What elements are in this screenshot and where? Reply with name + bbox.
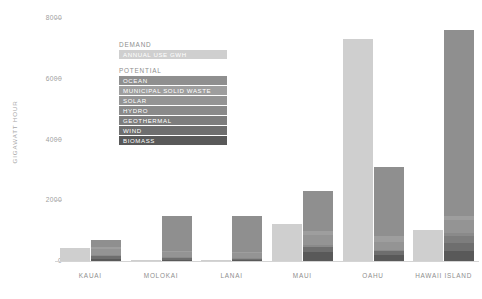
bar-segment [232, 259, 262, 260]
bar-segment [232, 253, 262, 258]
bar-segment [444, 251, 474, 261]
bar-potential [444, 30, 474, 261]
legend-group-demand: ANNUAL USE GWH [119, 50, 227, 59]
legend-item-wind[interactable]: WIND [119, 126, 227, 135]
legend-item-label: HYDRO [119, 107, 148, 114]
bar-segment [444, 236, 474, 243]
bar-potential [162, 215, 192, 261]
chart-root: GIGAWATT HOUR 02000400060008000 KAUAIMOL… [0, 0, 482, 299]
bar-group [413, 0, 474, 261]
bar-segment [303, 235, 333, 245]
bar-demand [272, 224, 302, 261]
bar-segment [91, 247, 121, 249]
legend-item-label: OCEAN [119, 77, 148, 84]
legend-item-municipal-solid-waste[interactable]: MUNICIPAL SOLID WASTE [119, 86, 227, 95]
bar-segment [162, 257, 192, 258]
bar-segment [444, 243, 474, 251]
legend-item-label: WIND [119, 127, 142, 134]
bar-segment [91, 259, 121, 261]
legend-item-annual-use-gwh[interactable]: ANNUAL USE GWH [119, 50, 227, 59]
bar-demand [131, 260, 161, 261]
bar-group [60, 0, 121, 261]
bar-segment [374, 250, 404, 251]
bar-demand [413, 230, 443, 261]
legend-item-geothermal[interactable]: GEOTHERMAL [119, 116, 227, 125]
bar-segment [91, 255, 121, 256]
legend-item-label: ANNUAL USE GWH [119, 51, 187, 58]
legend-item-biomass[interactable]: BIOMASS [119, 136, 227, 145]
y-axis-title: GIGAWATT HOUR [11, 101, 18, 164]
bar-segment [91, 249, 121, 255]
legend-item-label: BIOMASS [119, 137, 155, 144]
legend-heading-potential: POTENTIAL [119, 67, 227, 74]
bar-segment [374, 251, 404, 255]
bar-segment [444, 233, 474, 236]
bar-segment [162, 251, 192, 252]
bar-segment [374, 242, 404, 250]
bar-segment [162, 260, 192, 261]
legend-item-label: SOLAR [119, 97, 147, 104]
legend-group-potential: OCEANMUNICIPAL SOLID WASTESOLARHYDROGEOT… [119, 76, 227, 145]
bar-group [343, 0, 404, 261]
legend-item-label: GEOTHERMAL [119, 117, 172, 124]
legend-spacer [119, 60, 227, 67]
legend-item-solar[interactable]: SOLAR [119, 96, 227, 105]
bar-segment [91, 240, 121, 248]
bar-segment [162, 258, 192, 260]
legend-item-hydro[interactable]: HYDRO [119, 106, 227, 115]
bar-segment [162, 216, 192, 252]
bar-potential [232, 216, 262, 261]
bar-segment [444, 216, 474, 220]
bar-group [272, 0, 333, 261]
bar-segment [444, 30, 474, 216]
legend-item-ocean[interactable]: OCEAN [119, 76, 227, 85]
bar-segment [303, 231, 333, 235]
bar-potential [91, 240, 121, 261]
bar-segment [374, 236, 404, 242]
bar-segment [444, 220, 474, 233]
bar-segment [232, 216, 262, 252]
bar-potential [374, 167, 404, 261]
bar-segment [374, 255, 404, 261]
bar-demand [60, 248, 90, 261]
bar-segment [303, 245, 333, 247]
bar-demand [343, 39, 373, 261]
bar-segment [374, 167, 404, 236]
bar-segment [162, 252, 192, 257]
bar-segment [232, 252, 262, 253]
bar-potential [303, 191, 333, 261]
bar-segment [303, 247, 333, 252]
legend-heading-demand: DEMAND [119, 41, 227, 48]
x-axis-baseline [55, 261, 479, 262]
bar-segment [303, 252, 333, 261]
x-axis-label: HAWAII ISLAND [394, 272, 482, 279]
bar-segment [91, 256, 121, 259]
chart-legend: DEMAND ANNUAL USE GWH POTENTIAL OCEANMUN… [119, 41, 227, 146]
bar-segment [232, 258, 262, 259]
bar-demand [201, 260, 231, 261]
legend-item-label: MUNICIPAL SOLID WASTE [119, 87, 211, 94]
bar-segment [232, 260, 262, 261]
bar-segment [303, 191, 333, 231]
